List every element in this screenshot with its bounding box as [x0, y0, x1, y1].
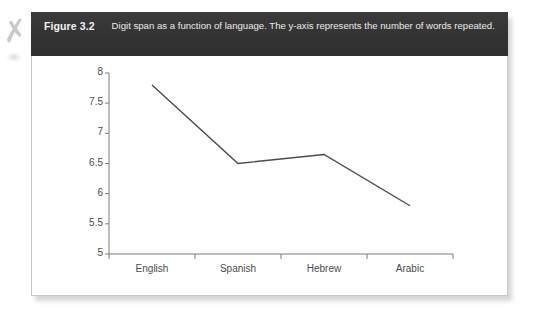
- x-tick-label: Arabic: [365, 263, 455, 274]
- scan-pencil-mark: ✗: [0, 12, 30, 49]
- figure-number-label: Figure 3.2: [44, 19, 95, 32]
- y-tick-label: 6: [63, 187, 103, 198]
- figure-caption-text: Digit span as a function of language. Th…: [112, 19, 495, 33]
- chart-svg: [32, 56, 509, 296]
- y-tick-label: 7: [63, 126, 103, 137]
- line-chart: 55.566.577.58EnglishSpanishHebrewArabic: [32, 56, 509, 296]
- y-tick-label: 5.5: [63, 217, 103, 228]
- figure-caption-bar: Figure 3.2 Digit span as a function of l…: [31, 12, 508, 56]
- figure-block: Figure 3.2 Digit span as a function of l…: [31, 12, 508, 296]
- x-tick-label: Spanish: [193, 263, 283, 274]
- scan-smudge: [6, 52, 22, 62]
- x-tick-label: English: [107, 263, 197, 274]
- y-tick-label: 8: [63, 66, 103, 77]
- y-tick-label: 7.5: [63, 96, 103, 107]
- y-tick-label: 5: [63, 247, 103, 258]
- y-tick-label: 6.5: [63, 157, 103, 168]
- data-line: [152, 85, 410, 206]
- x-tick-label: Hebrew: [279, 263, 369, 274]
- chart-panel: 55.566.577.58EnglishSpanishHebrewArabic: [31, 56, 508, 296]
